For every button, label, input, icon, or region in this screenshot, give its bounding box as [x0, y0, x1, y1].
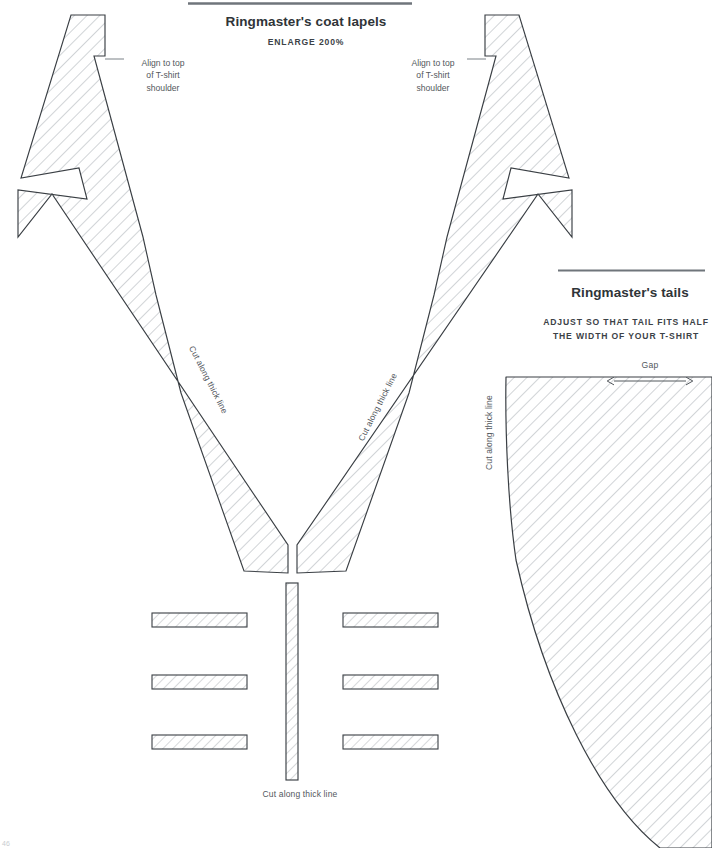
left-band-2: [152, 675, 247, 689]
left-band-group: [152, 613, 247, 749]
center-strip-cut-label: Cut along thick line: [222, 789, 378, 799]
tails-subtitle-line-1: ADJUST SO THAT TAIL FITS HALF: [540, 315, 712, 329]
center-strip-piece: [286, 583, 298, 780]
tails-outline: [506, 377, 712, 848]
lapels-section-title: Ringmaster's coat lapels: [176, 14, 436, 29]
lapels-section-subtitle: ENLARGE 200%: [176, 35, 436, 49]
tails-section-subtitle: ADJUST SO THAT TAIL FITS HALF THE WIDTH …: [540, 315, 712, 343]
left-callout-line-3: shoulder: [126, 82, 200, 94]
gap-measurement-label: Gap: [610, 360, 690, 370]
left-band-1: [152, 613, 247, 627]
tails-subtitle-line-2: THE WIDTH OF YOUR T-SHIRT: [540, 329, 712, 343]
page-number: 46: [2, 840, 10, 847]
left-band-3: [152, 735, 247, 749]
right-band-1: [343, 613, 438, 627]
left-callout-line-2: of T-shirt: [126, 69, 200, 81]
left-lapel-outline: [18, 15, 288, 573]
right-band-group: [343, 613, 438, 749]
tails-cut-label: Cut along thick line: [484, 395, 494, 470]
pattern-sheet: [0, 0, 712, 848]
tails-piece: [506, 377, 712, 848]
right-band-2: [343, 675, 438, 689]
tails-section-title: Ringmaster's tails: [548, 285, 712, 300]
left-callout-line-1: Align to top: [126, 57, 200, 69]
right-callout-line-1: Align to top: [396, 57, 470, 69]
right-lapel-callout: Align to top of T-shirt shoulder: [396, 57, 470, 94]
left-lapel-piece: [18, 15, 288, 573]
right-callout-line-3: shoulder: [396, 82, 470, 94]
left-lapel-callout: Align to top of T-shirt shoulder: [126, 57, 200, 94]
right-band-3: [343, 735, 438, 749]
right-callout-line-2: of T-shirt: [396, 69, 470, 81]
